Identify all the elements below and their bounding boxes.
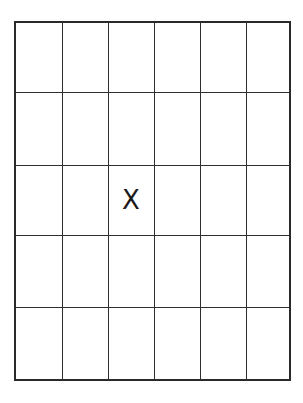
grid-column-divider (108, 23, 109, 379)
grid-row-divider (16, 307, 289, 308)
grid-column-divider (62, 23, 63, 379)
grid-column-divider (154, 23, 155, 379)
grid-board: X (14, 21, 291, 381)
grid-row-divider (16, 92, 289, 93)
grid-row-divider (16, 165, 289, 166)
grid-row-divider (16, 235, 289, 236)
grid-column-divider (246, 23, 247, 379)
cell-mark-x: X (122, 187, 140, 213)
grid-column-divider (200, 23, 201, 379)
